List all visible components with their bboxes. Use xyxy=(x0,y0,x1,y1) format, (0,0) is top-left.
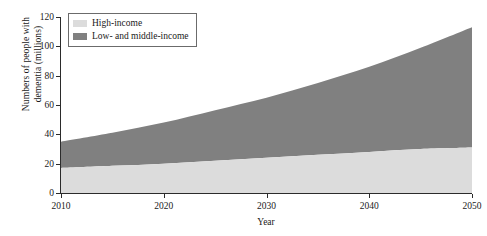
dementia-projection-area-chart: Numbers of people with dementia (million… xyxy=(0,0,487,236)
x-axis-tick-mark xyxy=(164,194,165,198)
y-axis-tick-mark xyxy=(56,193,60,194)
x-axis-tick-label: 2030 xyxy=(237,201,297,212)
chart-legend: High-income Low- and middle-income xyxy=(68,13,197,47)
y-axis-tick-label: 20 xyxy=(28,159,54,169)
legend-label-low-and-middle-income: Low- and middle-income xyxy=(92,31,189,42)
x-axis-tick-label: 2020 xyxy=(134,201,194,212)
legend-label-high-income: High-income xyxy=(92,18,142,29)
y-axis-tick-label: 40 xyxy=(28,129,54,139)
y-axis-tick-mark xyxy=(56,105,60,106)
x-axis-tick-label: 2010 xyxy=(31,201,91,212)
x-axis-tick-mark xyxy=(472,194,473,198)
x-axis-tick-label: 2040 xyxy=(339,201,399,212)
x-axis-title: Year xyxy=(60,217,472,227)
area-series-low-and-middle-income xyxy=(61,27,472,168)
x-axis-tick-mark xyxy=(267,194,268,198)
y-axis-tick-mark xyxy=(56,164,60,165)
y-axis-tick-mark xyxy=(56,76,60,77)
x-axis-tick-mark xyxy=(61,194,62,198)
legend-swatch-low-and-middle-income xyxy=(73,33,87,40)
y-axis-tick-label: 120 xyxy=(28,12,54,22)
y-axis-tick-label: 60 xyxy=(28,100,54,110)
legend-item-low-and-middle-income: Low- and middle-income xyxy=(73,30,189,43)
y-axis-tick-label: 80 xyxy=(28,71,54,81)
y-axis-tick-label: 0 xyxy=(28,188,54,198)
x-axis-tick-label: 2050 xyxy=(442,201,487,212)
legend-swatch-high-income xyxy=(73,20,87,27)
y-axis-tick-label: 100 xyxy=(28,41,54,51)
y-axis-tick-mark xyxy=(56,134,60,135)
y-axis-tick-mark xyxy=(56,46,60,47)
legend-item-high-income: High-income xyxy=(73,17,189,30)
y-axis-tick-mark xyxy=(56,17,60,18)
x-axis-tick-mark xyxy=(369,194,370,198)
